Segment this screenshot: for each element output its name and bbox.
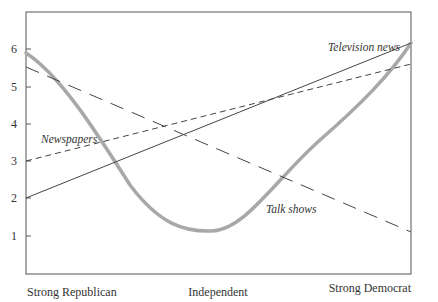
y-axis — [26, 49, 31, 236]
y-tick-4: 4 — [11, 117, 17, 131]
x-label-strong-democrat: Strong Democrat — [329, 281, 412, 295]
chart: 6 5 4 3 2 1 Strong Republican Independen… — [0, 0, 438, 302]
series-television-news — [26, 43, 411, 198]
y-tick-3: 3 — [11, 154, 17, 168]
x-label-strong-republican: Strong Republican — [27, 285, 117, 299]
y-tick-labels: 6 5 4 3 2 1 — [11, 42, 17, 243]
label-television-news: Television news — [328, 41, 401, 53]
x-label-independent: Independent — [188, 285, 248, 299]
series-long-dashed — [26, 67, 411, 232]
label-newspapers: Newspapers — [40, 133, 98, 146]
y-tick-6: 6 — [11, 42, 17, 56]
y-tick-1: 1 — [11, 229, 17, 243]
y-tick-5: 5 — [11, 80, 17, 94]
y-tick-2: 2 — [11, 191, 17, 205]
label-talk-shows: Talk shows — [266, 203, 317, 215]
